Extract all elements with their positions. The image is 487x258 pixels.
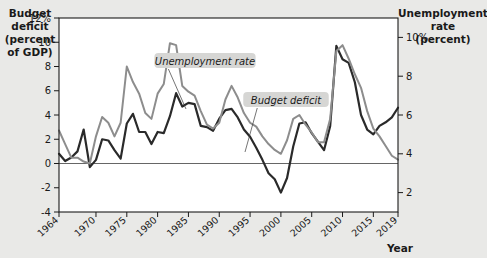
left-tick-label: -4: [41, 207, 51, 218]
x-tick-label: 1980: [134, 214, 159, 238]
plot-background: [59, 18, 398, 212]
annotation-label: Unemployment rate: [155, 56, 255, 67]
left-tick-label: 2: [45, 134, 51, 145]
x-axis-ticks: 1964197019751980198519901995200020052010…: [35, 212, 399, 239]
right-axis-title-line1: Unemployment: [398, 7, 487, 19]
x-tick-label: 1990: [195, 214, 220, 238]
left-tick-label: 6: [45, 85, 51, 96]
x-tick-label: 2000: [257, 214, 282, 238]
x-tick-label: 1995: [226, 214, 251, 238]
left-tick-label: 10: [38, 37, 51, 48]
right-tick-label: 10%: [406, 32, 428, 43]
x-tick-label: 2005: [288, 214, 313, 238]
annotation-label: Budget deficit: [251, 95, 322, 106]
x-tick-label: 1985: [164, 214, 189, 238]
right-axis-title-line2: rate: [431, 20, 455, 32]
x-tick-label: 2015: [349, 214, 374, 238]
left-tick-label: 8: [45, 61, 51, 72]
chart-figure: Budget deficit (percent of GDP) Unemploy…: [0, 0, 487, 258]
left-tick-label: 0: [45, 158, 51, 169]
left-tick-label: -2: [41, 182, 51, 193]
right-axis-ticks: 10%8642: [398, 32, 428, 198]
x-tick-label: 1970: [72, 214, 97, 238]
right-tick-label: 2: [406, 187, 412, 198]
left-axis-title-line4: of GDP): [7, 46, 52, 58]
right-tick-label: 8: [406, 71, 412, 82]
x-tick-label: 1964: [35, 214, 60, 238]
right-tick-label: 4: [406, 148, 412, 159]
right-tick-label: 6: [406, 110, 412, 121]
x-tick-label: 1975: [103, 214, 128, 238]
x-tick-label: 2019: [374, 214, 399, 238]
left-tick-label: 12%: [29, 13, 51, 24]
x-axis-title: Year: [386, 242, 414, 254]
left-tick-label: 4: [45, 110, 51, 121]
x-tick-label: 2010: [319, 214, 344, 238]
